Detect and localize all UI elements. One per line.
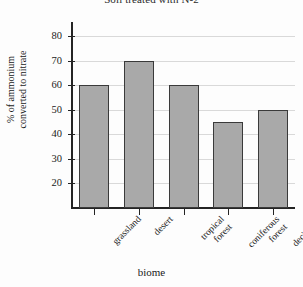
bar (79, 85, 109, 208)
y-tick-mark (68, 61, 75, 62)
y-tick-label: 70 (40, 56, 62, 67)
x-tick-label-line: desert (152, 214, 176, 238)
y-axis-title-line: % of ammonium (5, 25, 17, 155)
y-tick-label: 40 (40, 129, 62, 140)
y-tick-label: 80 (40, 31, 62, 42)
x-tick-mark (139, 209, 140, 215)
x-tick-label: coniferousforest (246, 214, 290, 258)
bar (169, 85, 199, 208)
x-tick-label: deciduousforest (290, 214, 303, 257)
gridline (72, 61, 295, 62)
y-tick-mark (68, 85, 75, 86)
y-axis-title-line: converted to nitrate (16, 25, 28, 155)
y-tick-label: 50 (40, 105, 62, 116)
x-tick-mark (184, 209, 185, 215)
gridline (72, 36, 295, 37)
y-tick-label: 30 (40, 154, 62, 165)
y-tick-label: 20 (40, 178, 62, 189)
bar (213, 122, 243, 208)
y-tick-mark (68, 134, 75, 135)
x-tick-mark (94, 209, 95, 215)
y-tick-mark (68, 110, 75, 111)
y-axis-line (71, 22, 73, 209)
x-tick-label: tropicalforest (198, 214, 234, 250)
y-tick-mark (68, 159, 75, 160)
bar (124, 61, 154, 208)
x-tick-label-line: deciduous (290, 214, 303, 249)
x-axis-title: biome (0, 266, 303, 278)
bar (258, 110, 288, 208)
x-tick-mark (228, 209, 229, 215)
y-axis-title: % of ammoniumconverted to nitrate (5, 25, 28, 155)
y-tick-mark (68, 183, 75, 184)
bar-chart: Soil treated with N-2 % of ammoniumconve… (0, 0, 303, 287)
x-tick-label: grassland (111, 214, 144, 247)
x-tick-label: desert (152, 214, 176, 238)
y-tick-mark (68, 36, 75, 37)
chart-title: Soil treated with N-2 (0, 0, 303, 5)
x-tick-mark (273, 209, 274, 215)
y-tick-label: 60 (40, 80, 62, 91)
x-tick-label-line: grassland (111, 214, 144, 247)
